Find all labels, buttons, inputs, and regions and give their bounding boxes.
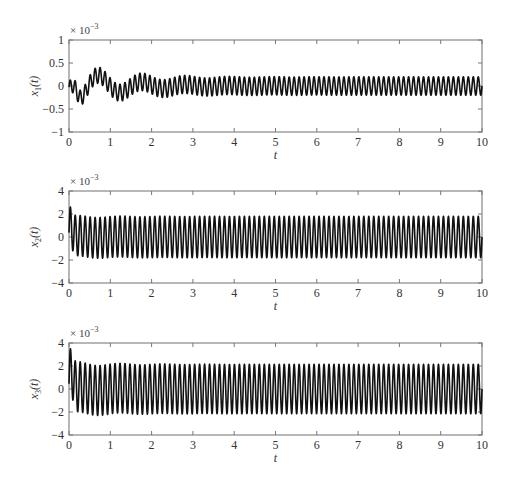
x-tick-label: 3 xyxy=(190,286,196,300)
y-axis-label: x2(t) xyxy=(27,227,43,249)
x-tick-label: 4 xyxy=(231,438,237,452)
y-tick-label: −4 xyxy=(51,276,64,290)
x-tick-label: 8 xyxy=(396,286,402,300)
x-tick-label: 6 xyxy=(314,286,320,300)
x-tick-label: 8 xyxy=(396,438,402,452)
y-tick-label: −1 xyxy=(51,125,64,139)
x-tick-label: 1 xyxy=(107,286,113,300)
x-tick-label: 10 xyxy=(476,286,488,300)
y-tick-label: 0 xyxy=(58,230,64,244)
x-tick-label: 4 xyxy=(231,135,237,149)
x-tick-label: 1 xyxy=(107,135,113,149)
x-axis-label: t xyxy=(274,148,278,162)
y-tick-label: −2 xyxy=(51,405,64,419)
y-tick-label: 2 xyxy=(58,359,64,373)
x-tick-label: 6 xyxy=(314,438,320,452)
x-tick-label: 7 xyxy=(355,135,361,149)
x-tick-label: 6 xyxy=(314,135,320,149)
x-tick-label: 1 xyxy=(107,438,113,452)
y-scale-note: × 10−3 xyxy=(70,22,98,36)
y-tick-label: 2 xyxy=(58,207,64,221)
x-axis-label: t xyxy=(274,299,278,313)
x-tick-label: 5 xyxy=(273,438,279,452)
series-line-x3 xyxy=(69,349,482,416)
y-scale-note: × 10−3 xyxy=(70,173,98,187)
x-tick-label: 2 xyxy=(149,135,155,149)
x-tick-label: 0 xyxy=(66,286,72,300)
x-tick-label: 3 xyxy=(190,135,196,149)
subplot-1: 012345678910−1−0.500.51× 10−3tx1(t) xyxy=(27,22,488,162)
x-tick-label: 0 xyxy=(66,135,72,149)
y-tick-label: −4 xyxy=(51,428,64,442)
x-axis-label: t xyxy=(274,451,278,465)
y-tick-label: 1 xyxy=(58,33,64,47)
x-tick-label: 9 xyxy=(438,286,444,300)
y-tick-label: 4 xyxy=(58,336,64,350)
y-tick-label: 0.5 xyxy=(49,56,64,70)
x-tick-label: 2 xyxy=(149,438,155,452)
x-tick-label: 3 xyxy=(190,438,196,452)
x-tick-label: 5 xyxy=(273,135,279,149)
subplot-2: 012345678910−4−2024× 10−3tx2(t) xyxy=(27,173,488,313)
x-tick-label: 2 xyxy=(149,286,155,300)
series-line-x1 xyxy=(69,68,482,104)
y-tick-label: 4 xyxy=(58,184,64,198)
y-axis-label: x1(t) xyxy=(27,76,43,98)
y-tick-label: −2 xyxy=(51,253,64,267)
x-tick-label: 9 xyxy=(438,438,444,452)
series-line-x2 xyxy=(69,207,482,258)
x-tick-label: 9 xyxy=(438,135,444,149)
x-tick-label: 4 xyxy=(231,286,237,300)
x-tick-label: 5 xyxy=(273,286,279,300)
x-tick-label: 10 xyxy=(476,438,488,452)
x-tick-label: 7 xyxy=(355,438,361,452)
x-tick-label: 10 xyxy=(476,135,488,149)
subplot-3: 012345678910−4−2024× 10−3tx3(t) xyxy=(27,325,488,465)
y-scale-note: × 10−3 xyxy=(70,325,98,339)
y-tick-label: 0 xyxy=(58,79,64,93)
x-tick-label: 8 xyxy=(396,135,402,149)
y-tick-label: 0 xyxy=(58,382,64,396)
figure: 012345678910−1−0.500.51× 10−3tx1(t)01234… xyxy=(0,0,508,483)
x-tick-label: 0 xyxy=(66,438,72,452)
y-axis-label: x3(t) xyxy=(27,379,43,401)
x-tick-label: 7 xyxy=(355,286,361,300)
y-tick-label: −0.5 xyxy=(42,102,64,116)
